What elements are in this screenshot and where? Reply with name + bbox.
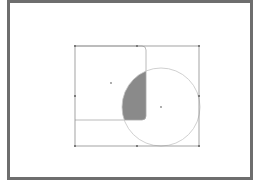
handle-bottom-middle[interactable] — [136, 145, 138, 147]
handle-bottom-left[interactable] — [74, 145, 76, 147]
handle-bottom-right[interactable] — [198, 145, 200, 147]
handle-top-right[interactable] — [198, 45, 200, 47]
square-center-point — [110, 82, 112, 84]
handle-top-middle[interactable] — [136, 45, 138, 47]
handle-top-left[interactable] — [74, 45, 76, 47]
drawing-canvas — [0, 0, 257, 188]
handle-middle-right[interactable] — [198, 95, 200, 97]
circle-center-point — [160, 106, 162, 108]
handle-middle-left[interactable] — [74, 95, 76, 97]
